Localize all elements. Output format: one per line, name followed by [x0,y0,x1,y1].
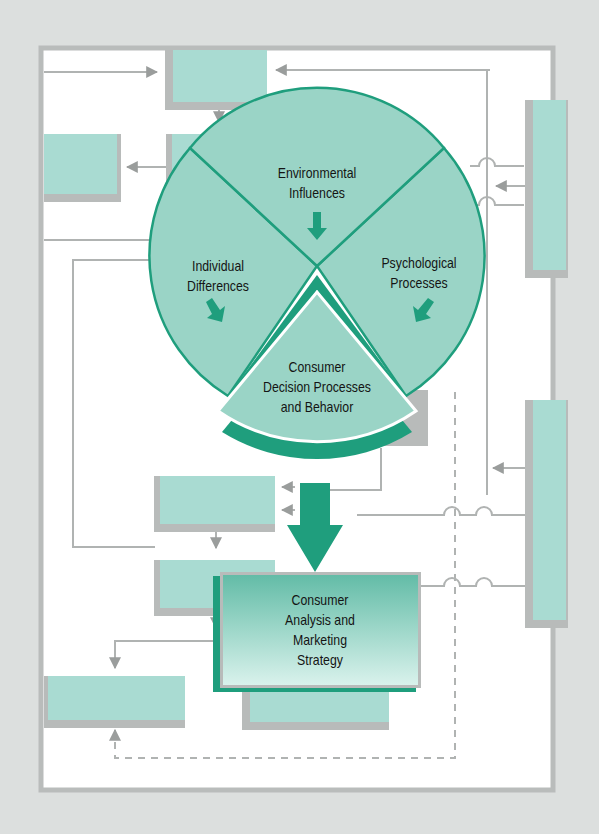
label-environmental: Environmental Influences [272,163,362,203]
box-mid-left-1 [154,476,275,532]
label-decision: Consumer Decision Processes and Behavior [260,357,375,417]
label-psychological: Psychological Processes [374,253,464,293]
box-bottom-center [242,690,389,730]
box-left-upper [44,134,121,202]
diagram-canvas: Environmental Influences Individual Diff… [0,0,599,834]
box-right-bottom-tall [525,400,568,628]
label-strategy: Consumer Analysis and Marketing Strategy [271,590,369,670]
diagram-graphics [0,0,599,834]
label-individual: Individual Differences [173,256,263,296]
box-bottom-left [44,676,185,728]
box-right-top-tall [525,100,568,278]
